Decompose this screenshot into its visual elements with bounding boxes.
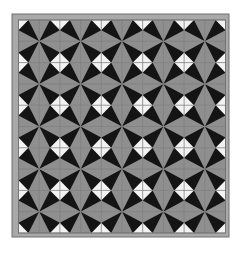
quilt-pattern [0, 0, 242, 253]
